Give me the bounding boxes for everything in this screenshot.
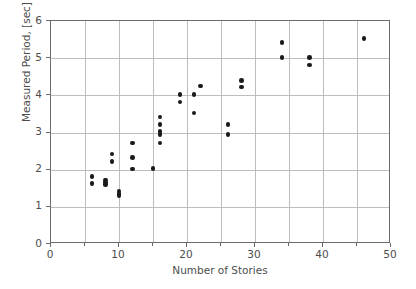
data-point [110,152,115,157]
x-tick-minor [288,243,289,246]
x-tick-label: 40 [302,248,342,260]
gridline-vertical [153,21,154,242]
data-point [158,122,163,127]
y-tick-label: 6 [20,15,42,26]
data-point [239,85,244,90]
x-tick-label: 20 [166,248,206,260]
data-point [158,141,163,146]
gridline-vertical [221,21,222,242]
x-tick [254,243,255,247]
data-point [239,78,244,83]
data-point [178,100,183,105]
y-tick-label: 4 [20,89,42,100]
x-tick [118,243,119,247]
y-tick-label: 0 [20,238,42,249]
x-tick [322,243,323,247]
data-point [130,167,135,172]
gridline-horizontal [51,58,389,59]
data-point [226,132,231,137]
x-tick-label: 50 [370,248,410,260]
gridline-horizontal [51,207,389,208]
data-point [192,111,197,116]
plot-area [50,20,390,243]
x-tick-label: 10 [98,248,138,260]
x-tick-label: 30 [234,248,274,260]
x-tick-minor [356,243,357,246]
gridline-horizontal [51,95,389,96]
x-tick [50,243,51,247]
data-point [280,40,285,45]
y-tick [46,132,50,133]
data-point [130,141,135,146]
data-point [307,55,312,60]
gridline-vertical [85,21,86,242]
gridline-vertical [187,21,188,242]
y-tick [46,57,50,58]
data-point [307,63,312,68]
data-point [362,36,367,41]
y-tick [46,206,50,207]
x-tick-minor [152,243,153,246]
data-point [158,132,163,137]
y-tick-label: 1 [20,200,42,211]
y-tick-label: 3 [20,126,42,137]
x-tick-minor [84,243,85,246]
data-point [90,181,95,186]
data-point [226,122,231,127]
data-point [117,193,122,198]
y-tick-label: 5 [20,52,42,63]
data-point [198,84,203,89]
x-tick-label: 0 [30,248,70,260]
data-point [151,166,156,171]
y-tick-label: 2 [20,163,42,174]
y-tick [46,20,50,21]
y-tick [46,243,50,244]
x-axis-label: Number of Stories [50,264,390,276]
gridline-horizontal [51,133,389,134]
data-point [280,55,285,60]
scatter-chart-figure: Number of Stories Measured Period, [sec]… [0,0,416,289]
gridline-horizontal [51,170,389,171]
gridline-vertical [255,21,256,242]
gridline-vertical [323,21,324,242]
data-point [192,92,197,97]
gridline-vertical [289,21,290,242]
x-tick [186,243,187,247]
data-point [103,182,108,187]
gridline-vertical [357,21,358,242]
data-point [110,159,115,164]
y-tick [46,94,50,95]
gridline-vertical [119,21,120,242]
data-point [130,155,135,160]
x-tick [390,243,391,247]
data-point [158,115,163,120]
data-point [90,174,95,179]
x-tick-minor [220,243,221,246]
y-tick [46,169,50,170]
